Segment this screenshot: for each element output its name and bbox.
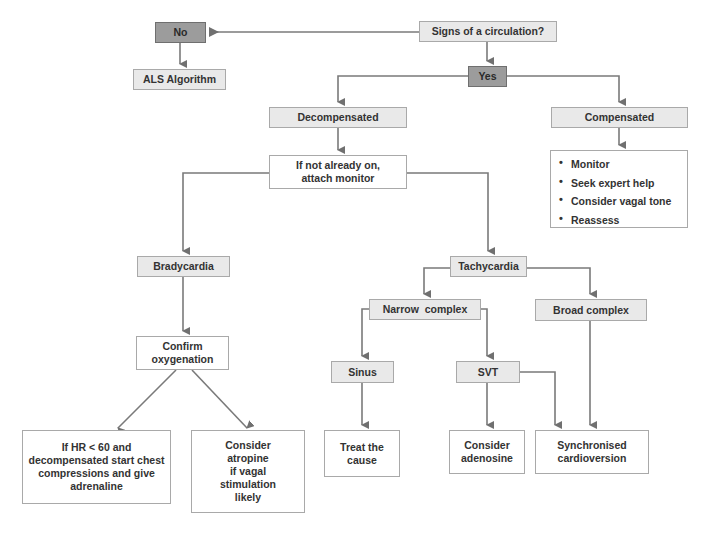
action-item: Monitor bbox=[559, 155, 687, 174]
node-no-label: No bbox=[174, 26, 188, 39]
node-adenosine-line: adenosine bbox=[461, 452, 513, 465]
node-confirm-line: Confirm bbox=[162, 340, 202, 353]
node-decompensated: Decompensated bbox=[269, 107, 407, 128]
node-atropine-line: Consider bbox=[225, 439, 271, 452]
action-item: Consider vagal tone bbox=[559, 192, 687, 211]
arrow-yes-to-compensated bbox=[506, 76, 619, 102]
flowchart: No Signs of a circulation? ALS Algorithm… bbox=[0, 0, 712, 534]
node-narrow-complex: Narrow complex bbox=[369, 299, 481, 320]
node-tachycardia-label: Tachycardia bbox=[458, 260, 519, 273]
node-broad-complex: Broad complex bbox=[535, 299, 647, 321]
node-atropine-line: atropine bbox=[227, 452, 268, 465]
node-compensated-actions: Monitor Seek expert help Consider vagal … bbox=[550, 150, 688, 228]
node-bradycardia: Bradycardia bbox=[137, 256, 230, 277]
arrow-confirm-to-atropine bbox=[192, 370, 247, 428]
arrow-svt-to-cardioversion bbox=[519, 372, 555, 425]
node-no: No bbox=[155, 22, 206, 43]
arrow-narrow-to-sinus bbox=[362, 309, 369, 356]
node-adenosine-line: Consider bbox=[464, 439, 510, 452]
node-bradycardia-label: Bradycardia bbox=[153, 260, 214, 273]
node-sinus: Sinus bbox=[331, 361, 394, 383]
node-cardioversion-line: Synchronised bbox=[557, 439, 626, 452]
node-compensated: Compensated bbox=[551, 107, 688, 128]
node-narrow-label: Narrow complex bbox=[383, 303, 468, 316]
node-hr-compressions: If HR < 60 and decompensated start chest… bbox=[22, 430, 171, 504]
node-svt-label: SVT bbox=[478, 366, 498, 379]
arrow-narrow-to-svt bbox=[480, 309, 487, 356]
arrow-tachycardia-to-narrow bbox=[424, 268, 450, 294]
node-atropine-line: if vagal bbox=[230, 465, 266, 478]
node-synchronised-cardioversion: Synchronised cardioversion bbox=[535, 430, 649, 474]
node-yes-label: Yes bbox=[478, 70, 496, 83]
node-signs-of-circulation: Signs of a circulation? bbox=[419, 21, 557, 42]
node-sinus-label: Sinus bbox=[348, 366, 377, 379]
arrow-tachycardia-to-broad bbox=[526, 268, 590, 294]
node-hr-line: If HR < 60 and bbox=[62, 441, 132, 454]
node-treat-cause: Treat the cause bbox=[324, 430, 400, 477]
node-attach-monitor: If not already on, attach monitor bbox=[269, 155, 407, 189]
node-broad-label: Broad complex bbox=[553, 304, 629, 317]
arrow-attach-to-tachycardia bbox=[407, 173, 488, 251]
arrow-yes-to-decompensated bbox=[338, 76, 468, 102]
node-atropine-line: stimulation bbox=[220, 478, 276, 491]
node-cardioversion-line: cardioversion bbox=[558, 452, 627, 465]
node-confirm-oxygenation: Confirm oxygenation bbox=[136, 336, 229, 370]
node-hr-line: adrenaline bbox=[70, 480, 123, 493]
node-atropine-line: likely bbox=[235, 491, 261, 504]
node-svt: SVT bbox=[456, 361, 520, 383]
node-als-label: ALS Algorithm bbox=[143, 73, 216, 86]
node-als-algorithm: ALS Algorithm bbox=[133, 69, 226, 90]
node-atropine: Consider atropine if vagal stimulation l… bbox=[191, 430, 305, 513]
action-item: Reassess bbox=[559, 211, 687, 230]
node-treat-line: cause bbox=[347, 454, 377, 467]
action-item: Seek expert help bbox=[559, 174, 687, 193]
node-tachycardia: Tachycardia bbox=[450, 256, 527, 277]
node-yes: Yes bbox=[468, 66, 507, 87]
node-attach-line: attach monitor bbox=[302, 172, 375, 185]
node-hr-line: compressions and give bbox=[38, 467, 155, 480]
node-consider-adenosine: Consider adenosine bbox=[449, 430, 525, 474]
node-confirm-line: oxygenation bbox=[152, 353, 214, 366]
node-attach-line: If not already on, bbox=[296, 159, 380, 172]
node-hr-line: decompensated start chest bbox=[29, 454, 165, 467]
node-treat-line: Treat the bbox=[340, 441, 384, 454]
node-decompensated-label: Decompensated bbox=[297, 111, 378, 124]
arrow-confirm-to-hr bbox=[118, 370, 176, 428]
node-signs-label: Signs of a circulation? bbox=[432, 25, 545, 38]
node-compensated-label: Compensated bbox=[585, 111, 654, 124]
arrow-attach-to-bradycardia bbox=[183, 173, 269, 251]
